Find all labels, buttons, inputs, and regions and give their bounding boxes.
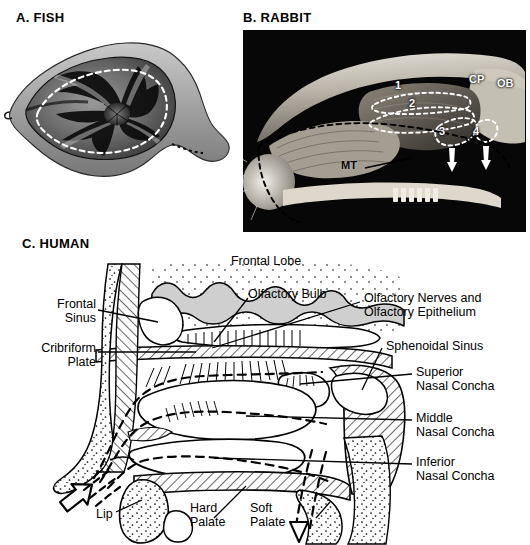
label-superior-nasal-concha: Superior Nasal Concha <box>416 366 495 393</box>
human-nasal-cavity-diagram: Frontal Lobe Olfactory Bulb Olfactory Ne… <box>0 250 530 545</box>
rabbit-label-cribriform-plate: CP <box>469 74 484 85</box>
label-middle-nasal-concha: Middle Nasal Concha <box>416 412 495 439</box>
label-lip: Lip <box>96 508 113 522</box>
fish-olfactory-rosette-photo <box>4 26 234 191</box>
label-frontal-lobe: Frontal Lobe <box>196 255 336 269</box>
label-olfactory-bulb: Olfactory Bulb <box>248 288 327 302</box>
outflow-arrow <box>290 522 308 542</box>
soft-palate <box>296 490 342 544</box>
rabbit-label-ethmoturbinate-2: 2 <box>409 98 415 109</box>
label-cribriform-plate: Cribriform Plate <box>0 342 96 369</box>
panel-c-heading: C. HUMAN <box>22 236 89 251</box>
label-sphenoidal-sinus: Sphenoidal Sinus <box>386 340 483 354</box>
rabbit-label-ethmoturbinate-3: 3 <box>439 126 445 137</box>
label-olfactory-nerves-and-epithelium: Olfactory Nerves and Olfactory Epitheliu… <box>364 292 481 319</box>
rabbit-head-sagittal-photo: 1 2 3 4 CP OB MT <box>243 30 526 232</box>
rabbit-label-maxilloturbinate: MT <box>341 160 357 171</box>
label-hard-palate: Hard Palate <box>190 502 225 529</box>
rabbit-label-ethmoturbinate-1: 1 <box>395 80 401 91</box>
comparative-olfactory-anatomy-figure: A. FISH <box>0 0 530 545</box>
incisor-tooth <box>164 511 193 542</box>
panel-a-heading: A. FISH <box>16 10 64 25</box>
label-soft-palate: Soft Palate <box>250 502 285 529</box>
maxilla-strut <box>128 428 172 441</box>
label-frontal-sinus: Frontal Sinus <box>0 298 96 325</box>
rabbit-label-ethmoturbinate-4: 4 <box>473 126 479 137</box>
label-inferior-nasal-concha: Inferior Nasal Concha <box>416 456 495 483</box>
rabbit-label-olfactory-bulb: OB <box>497 78 514 89</box>
panel-b-heading: B. RABBIT <box>243 10 311 25</box>
upper-lip <box>120 480 169 543</box>
